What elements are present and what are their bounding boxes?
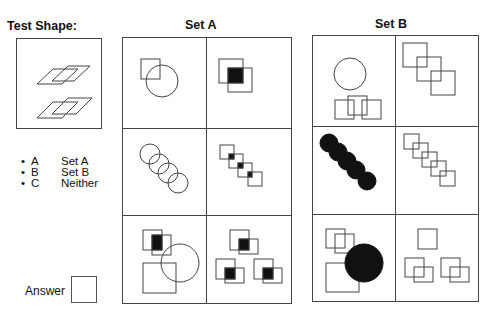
set-a-cell-5	[143, 230, 199, 293]
answer-label: Answer	[25, 284, 65, 298]
set-b-cell-4	[404, 134, 455, 186]
test-shape-title: Test Shape:	[7, 19, 77, 33]
set-b-title: Set B	[375, 17, 407, 31]
set-b-cell-6	[405, 229, 469, 282]
answer-box[interactable]	[71, 276, 97, 303]
set-a-cell-3	[140, 144, 188, 193]
test-shape-box	[17, 39, 102, 129]
set-b-grid	[313, 36, 479, 302]
set-a-cell-1	[141, 59, 178, 97]
option-c: •CNeither	[21, 178, 98, 189]
set-a-title: Set A	[185, 18, 217, 32]
set-a-cell-4	[220, 145, 262, 186]
set-b-cell-3	[320, 134, 376, 190]
set-b-cell-1	[334, 58, 381, 119]
set-a-cell-2	[219, 59, 252, 92]
set-b-cell-5	[326, 229, 383, 292]
set-a-grid	[123, 38, 292, 304]
bullet-icon: •	[21, 178, 31, 189]
set-a-cell-6	[216, 230, 282, 283]
set-b-cell-2	[403, 43, 455, 95]
